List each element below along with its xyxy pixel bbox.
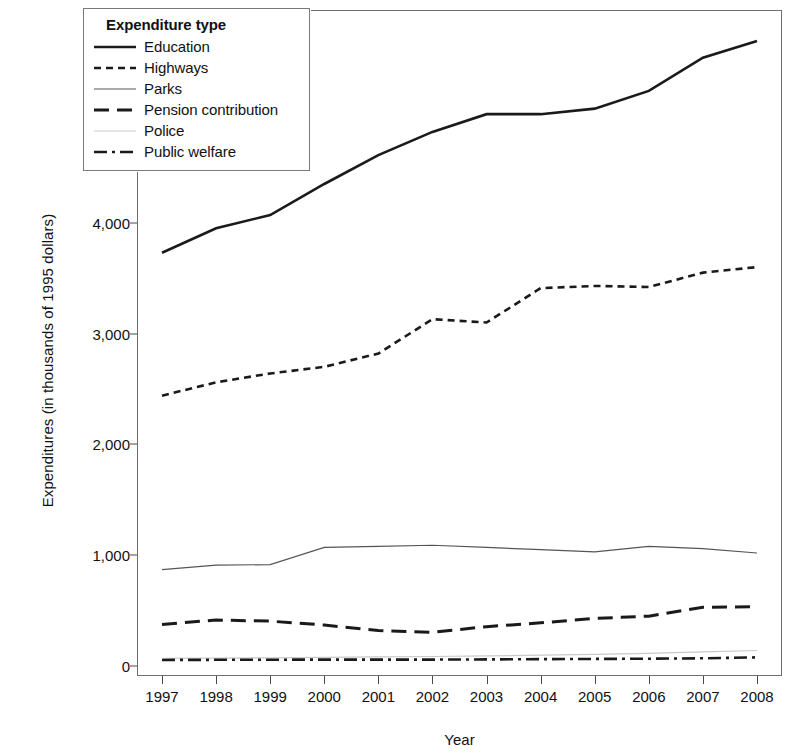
x-tick-label: 2007: [673, 688, 733, 705]
chart-figure: Expenditures (in thousands of 1995 dolla…: [0, 0, 786, 756]
legend-item-highways[interactable]: Highways: [93, 57, 300, 78]
legend-title: Expenditure type: [106, 16, 300, 33]
x-tick-mark: [487, 676, 488, 684]
line-solid-icon: [93, 41, 137, 53]
x-tick-mark: [216, 676, 217, 684]
legend-item-label: Pension contribution: [144, 101, 278, 118]
x-tick-label: 2000: [294, 688, 354, 705]
legend-item-label: Highways: [144, 59, 208, 76]
series-line-highways: [162, 267, 757, 396]
y-tick-label: 1,000: [68, 548, 130, 563]
legend-item-pension-contribution[interactable]: Pension contribution: [93, 99, 300, 120]
x-tick-label: 2005: [565, 688, 625, 705]
x-tick-mark: [757, 676, 758, 684]
legend: Expenditure type EducationHighwaysParksP…: [83, 8, 310, 171]
x-tick-label: 1999: [240, 688, 300, 705]
x-tick-label: 2002: [402, 688, 462, 705]
x-tick-label: 2006: [619, 688, 679, 705]
x-tick-mark: [703, 676, 704, 684]
legend-item-label: Parks: [144, 80, 182, 97]
line-light-icon: [93, 125, 137, 137]
y-axis-title: Expenditures (in thousands of 1995 dolla…: [39, 71, 56, 651]
x-tick-mark: [649, 676, 650, 684]
x-tick-label: 1997: [132, 688, 192, 705]
legend-item-police[interactable]: Police: [93, 120, 300, 141]
x-tick-mark: [162, 676, 163, 684]
legend-item-parks[interactable]: Parks: [93, 78, 300, 99]
legend-item-label: Public welfare: [144, 143, 236, 160]
line-thin-icon: [93, 83, 137, 95]
x-tick-label: 1998: [186, 688, 246, 705]
x-axis-title: Year: [137, 731, 782, 748]
legend-item-education[interactable]: Education: [93, 36, 300, 57]
x-tick-label: 2001: [348, 688, 408, 705]
series-line-police: [162, 651, 757, 659]
legend-items: EducationHighwaysParksPension contributi…: [93, 36, 300, 162]
y-tick-label: 2,000: [68, 437, 130, 452]
line-dashdot-icon: [93, 146, 137, 158]
x-tick-mark: [378, 676, 379, 684]
series-line-pension-contribution: [162, 607, 757, 632]
x-tick-mark: [541, 676, 542, 684]
line-dotted-icon: [93, 62, 137, 74]
legend-item-label: Police: [144, 122, 184, 139]
series-line-parks: [162, 545, 757, 569]
x-tick-mark: [324, 676, 325, 684]
x-tick-label: 2008: [727, 688, 786, 705]
x-tick-label: 2004: [511, 688, 571, 705]
legend-item-public-welfare[interactable]: Public welfare: [93, 141, 300, 162]
y-tick-label: 0: [68, 659, 130, 674]
x-tick-mark: [595, 676, 596, 684]
y-tick-label: 3,000: [68, 326, 130, 341]
x-tick-mark: [270, 676, 271, 684]
line-dashed-icon: [93, 104, 137, 116]
legend-item-label: Education: [144, 38, 210, 55]
x-tick-mark: [432, 676, 433, 684]
y-tick-label: 4,000: [68, 215, 130, 230]
x-tick-label: 2003: [457, 688, 517, 705]
